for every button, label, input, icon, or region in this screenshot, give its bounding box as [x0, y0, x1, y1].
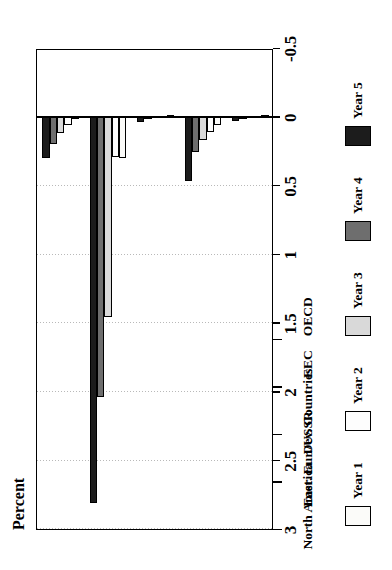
chart-figure: Percent Year 1Year 2Year 3Year 4Year 5 3…	[0, 0, 392, 570]
value-tick	[273, 391, 280, 392]
bar-4	[144, 117, 151, 120]
category-tick	[273, 529, 282, 530]
bar-5	[232, 117, 239, 121]
value-tick	[273, 460, 280, 461]
bar-1	[167, 115, 174, 117]
bar-1	[261, 115, 268, 117]
value-tick	[273, 116, 280, 117]
legend-swatch	[345, 126, 371, 146]
legend-label: Year 5	[350, 82, 366, 119]
value-axis-title: Percent	[10, 478, 28, 530]
bar-3	[104, 117, 111, 318]
bar-4	[50, 117, 57, 144]
bar-2	[112, 117, 119, 157]
legend-label: Year 1	[350, 462, 366, 499]
legend-item[interactable]: Year 3	[345, 272, 371, 336]
legend-item[interactable]: Year 1	[345, 462, 371, 526]
value-tick	[273, 322, 280, 323]
legend-item[interactable]: Year 4	[345, 177, 371, 241]
legend-swatch	[345, 506, 371, 526]
value-tick-label: 3	[281, 526, 301, 534]
bar-2	[254, 116, 261, 118]
value-tick	[273, 254, 280, 255]
bar-5	[90, 117, 97, 503]
bar-4	[97, 117, 104, 397]
value-tick-label: 2.5	[281, 451, 301, 472]
bar-3	[152, 116, 159, 118]
value-tick-label: 0.5	[281, 176, 301, 197]
legend-swatch	[345, 221, 371, 241]
plot-area	[36, 49, 273, 530]
value-tick-label: 2	[281, 388, 301, 396]
bar-5	[185, 117, 192, 182]
gridline	[37, 185, 272, 186]
legend-swatch	[345, 316, 371, 336]
category-tick	[273, 386, 282, 387]
bar-5	[137, 117, 144, 122]
category-label: North America	[300, 463, 316, 550]
value-tick-label: -0.5	[281, 36, 301, 62]
category-tick	[273, 481, 282, 482]
bar-1	[119, 117, 126, 158]
value-tick	[273, 185, 280, 186]
chart-stage: Percent Year 1Year 2Year 3Year 4Year 5 3…	[0, 0, 392, 570]
bar-2	[207, 117, 214, 132]
chart-legend: Year 1Year 2Year 3Year 4Year 5	[345, 56, 375, 526]
category-label: OECD	[300, 297, 316, 336]
value-tick-label: 1	[281, 251, 301, 259]
value-tick	[273, 48, 280, 49]
bar-3	[57, 117, 64, 133]
legend-label: Year 3	[350, 272, 366, 309]
bar-3	[247, 116, 254, 118]
bar-3	[199, 117, 206, 140]
gridline	[37, 529, 272, 530]
bar-2	[159, 116, 166, 118]
bar-4	[239, 117, 246, 120]
gridline	[37, 391, 272, 392]
category-tick	[273, 434, 282, 435]
bar-1	[214, 117, 221, 125]
legend-label: Year 2	[350, 367, 366, 404]
value-tick-label: 0	[281, 114, 301, 122]
legend-item[interactable]: Year 5	[345, 82, 371, 146]
value-tick-label: 1.5	[281, 314, 301, 335]
gridline	[37, 322, 272, 323]
bar-5	[42, 117, 49, 158]
bar-1	[72, 117, 79, 120]
legend-swatch	[345, 411, 371, 431]
bar-2	[64, 117, 71, 125]
category-tick	[273, 339, 282, 340]
legend-label: Year 4	[350, 177, 366, 214]
gridline	[37, 460, 272, 461]
gridline	[37, 254, 272, 255]
legend-item[interactable]: Year 2	[345, 367, 371, 431]
bar-4	[192, 117, 199, 153]
